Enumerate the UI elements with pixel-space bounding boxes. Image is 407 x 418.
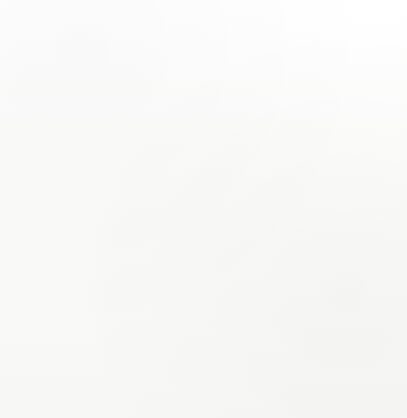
figure-caption-number: FIGURE 1.3	[7, 406, 58, 417]
headline-banner-line-2: patient's journey	[158, 38, 249, 53]
svg-text:400: 400	[35, 291, 50, 301]
journey-stage-diagnosis-label: Diagnosis	[26, 89, 130, 101]
headline-banner-hospital-costs: In fact, hospital costs in general are e…	[27, 190, 380, 223]
journey-stage-diagnosis: Diagnosis	[26, 78, 130, 111]
patient-journey-label: PATIENT JOURNEY	[23, 59, 130, 71]
svg-text:500: 500	[35, 273, 50, 283]
svg-text:200: 200	[35, 327, 50, 337]
legend-item-nursing-home: Nursing Home	[272, 320, 362, 330]
svg-text:0: 0	[45, 363, 50, 373]
chart-gridlines	[56, 260, 268, 350]
share-circle-treatment: 58%	[164, 126, 222, 184]
legend-item-hospital: Hospital	[272, 272, 362, 282]
chart-x-tick-labels: 20102015202020252030	[46, 375, 278, 385]
svg-text:600: 600	[35, 255, 50, 265]
svg-text:2015: 2015	[99, 375, 119, 385]
chart-series-lines	[77, 268, 268, 365]
svg-text:2030: 2030	[258, 375, 278, 385]
share-circle-maintenance: 7%	[292, 126, 350, 184]
svg-text:2010: 2010	[46, 375, 66, 385]
legend-swatch-nursing-home	[272, 324, 298, 327]
legend-item-physician: Physician	[272, 304, 362, 314]
journey-stage-treatment-label: Treatment	[124, 89, 270, 101]
svg-text:2020: 2020	[152, 375, 172, 385]
headline-banner-treatment: Treatment is the most expensive part of …	[27, 19, 380, 56]
figure-caption-text: Congestive heart failure patient journey	[61, 406, 224, 417]
legend-item-home-health: Home Health	[272, 336, 362, 346]
legend-label-medications: Medications	[304, 288, 352, 298]
share-circle-diagnosis-value: 35%	[55, 150, 76, 161]
share-circle-maintenance-value: 7%	[314, 150, 329, 161]
legend-swatch-home-health	[272, 340, 298, 343]
svg-text:2025: 2025	[205, 375, 225, 385]
share-circle-treatment-value: 58%	[183, 150, 204, 161]
chart-legend: HospitalMedicationsPhysicianNursing Home…	[272, 272, 362, 346]
infographic-page: Treatment is the most expensive part of …	[0, 0, 407, 418]
bottom-divider	[7, 399, 400, 401]
journey-stage-maintenance: Maintenance	[264, 78, 381, 111]
legend-swatch-medications	[272, 292, 298, 295]
legend-item-medications: Medications	[272, 288, 362, 298]
journey-stage-maintenance-label: Maintenance	[264, 89, 381, 101]
svg-text:100: 100	[35, 345, 50, 355]
chart-title: Projected direct costs of total cardiova…	[30, 228, 280, 251]
legend-label-nursing-home: Nursing Home	[304, 320, 362, 330]
legend-swatch-hospital	[272, 276, 298, 279]
journey-stage-treatment: Treatment	[124, 78, 270, 111]
figure-caption: FIGURE 1.3 Congestive heart failure pati…	[7, 406, 400, 417]
hospital-costs-banner-line-2: than double over the next 25 years	[115, 207, 293, 221]
svg-text:300: 300	[35, 309, 50, 319]
legend-swatch-physician	[272, 308, 298, 311]
legend-label-home-health: Home Health	[304, 336, 357, 346]
top-divider	[7, 11, 400, 13]
share-circle-diagnosis: 35%	[36, 126, 94, 184]
chart-title-line-1: Projected direct costs of total cardiova…	[30, 228, 242, 238]
legend-label-hospital: Hospital	[304, 272, 337, 282]
chart-y-tick-labels: 0100200300400500600	[35, 255, 50, 373]
legend-label-physician: Physician	[304, 304, 343, 314]
headline-banner-line-1: Treatment is the most expensive part of …	[78, 23, 329, 38]
hospital-costs-banner-line-1: In fact, hospital costs in general are e…	[65, 193, 341, 207]
